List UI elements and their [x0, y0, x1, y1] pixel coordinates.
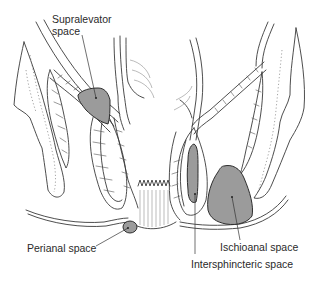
right-obturator [240, 72, 263, 175]
label-supralevator-line1: Supralevator [52, 13, 112, 25]
leader-perianal [96, 228, 128, 246]
left-rectal-wall [114, 36, 154, 130]
right-ischium [254, 28, 305, 198]
intersphincteric-space [187, 144, 198, 203]
supralevator-space [78, 88, 110, 124]
label-ischioanal: Ischioanal space [220, 241, 298, 253]
anorectal-spaces-diagram: Supralevator space Perianal space Ischio… [0, 0, 312, 282]
ischioanal-space [208, 166, 253, 225]
right-levator [192, 22, 274, 134]
anatomy-illustration [0, 0, 312, 282]
label-intersphincteric: Intersphincteric space [191, 258, 293, 270]
label-perianal: Perianal space [27, 242, 96, 254]
left-sphincter [90, 110, 138, 209]
label-supralevator-line2: space [52, 25, 112, 37]
shaded-spaces [78, 88, 253, 233]
perianal-space [123, 221, 137, 233]
right-rectal-wall [174, 38, 203, 140]
label-supralevator: Supralevator space [52, 13, 112, 37]
left-ischium [14, 42, 64, 197]
